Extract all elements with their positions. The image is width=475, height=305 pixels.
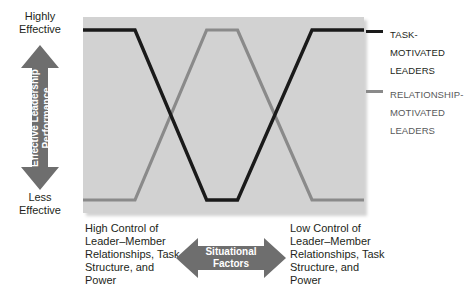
chart-legend: TASK- MOTIVATED LEADERS RELATIONSHIP- MO… xyxy=(366,24,474,144)
x-axis-title-line2: Factors xyxy=(213,258,249,270)
legend-swatch-task-motivated xyxy=(366,30,383,33)
x-axis-title: Situational Factors xyxy=(176,238,286,278)
y-axis-top-tick-line2: Effective xyxy=(2,23,78,36)
legend-label-relationship-motivated: RELATIONSHIP- MOTIVATED LEADERS xyxy=(390,89,463,136)
relationship-motivated-leaders-line xyxy=(83,30,364,200)
legend-label-task-motivated: TASK- MOTIVATED LEADERS xyxy=(390,29,445,76)
legend-label-line2: MOTIVATED xyxy=(390,107,445,118)
legend-swatch-relationship-motivated xyxy=(366,90,383,93)
legend-label-line3: LEADERS xyxy=(390,125,435,136)
y-axis-double-arrow: Effective Leadership Performance xyxy=(21,45,59,190)
y-axis-top-tick-label: Highly Effective xyxy=(2,10,78,35)
legend-item-task-motivated: TASK- MOTIVATED LEADERS xyxy=(366,24,474,78)
y-axis-title-line2: Performance xyxy=(40,87,51,148)
y-axis-top-tick-line1: Highly xyxy=(2,10,78,23)
y-axis-bottom-tick-label: Less Effective xyxy=(2,191,78,216)
legend-label-line2: MOTIVATED xyxy=(390,47,445,58)
x-axis-double-arrow: Situational Factors xyxy=(176,238,286,278)
y-axis-title-line1: Effective Leadership xyxy=(29,69,40,167)
task-motivated-leaders-line xyxy=(83,30,364,200)
x-axis-right-label: Low Control of Leader–Member Relationshi… xyxy=(290,222,390,287)
y-axis-bottom-tick-line2: Effective xyxy=(2,204,78,217)
x-axis-title-line1: Situational xyxy=(205,246,256,258)
y-axis-title: Effective Leadership Performance xyxy=(29,69,52,167)
y-axis-bottom-tick-line1: Less xyxy=(2,191,78,204)
legend-label-line1: TASK- xyxy=(390,29,418,40)
x-axis-left-label: High Control of Leader–Member Relationsh… xyxy=(85,222,181,287)
fiedler-contingency-model-chart: Highly Effective Effective Leadership Pe… xyxy=(0,0,475,305)
plot-lines xyxy=(83,17,364,213)
legend-label-line3: LEADERS xyxy=(390,65,435,76)
legend-item-relationship-motivated: RELATIONSHIP- MOTIVATED LEADERS xyxy=(366,84,474,138)
legend-label-line1: RELATIONSHIP- xyxy=(390,89,463,100)
